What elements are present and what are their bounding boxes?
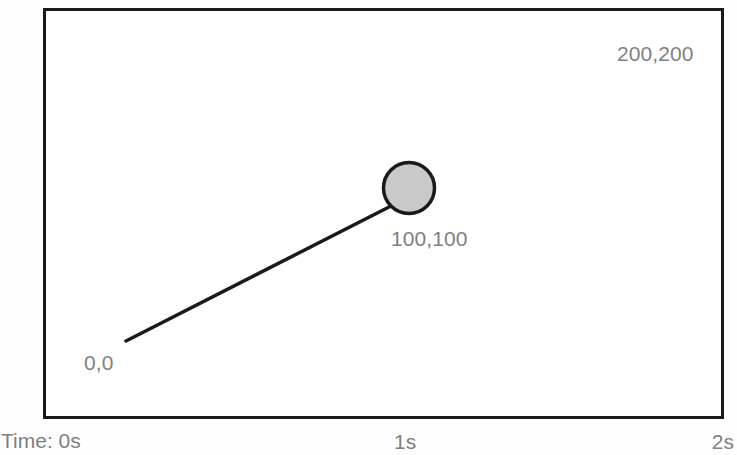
motion-diagram-figure: 200,200 100,100 0,0 Time: 0s 1s 2s: [0, 0, 737, 455]
coordinate-label-midpoint: 100,100: [391, 228, 468, 250]
time-axis: Time: 0s 1s 2s: [0, 429, 737, 455]
time-axis-label-start: Time: 0s: [1, 429, 81, 452]
coordinate-label-origin: 0,0: [84, 352, 114, 374]
time-axis-label-2s: 2s: [712, 430, 734, 453]
coordinate-label-max: 200,200: [617, 43, 694, 65]
time-axis-label-1s: 1s: [394, 430, 416, 453]
plot-area: [43, 8, 724, 419]
